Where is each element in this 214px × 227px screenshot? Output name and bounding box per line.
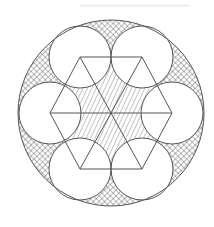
circle-packing-diagram <box>0 0 214 227</box>
